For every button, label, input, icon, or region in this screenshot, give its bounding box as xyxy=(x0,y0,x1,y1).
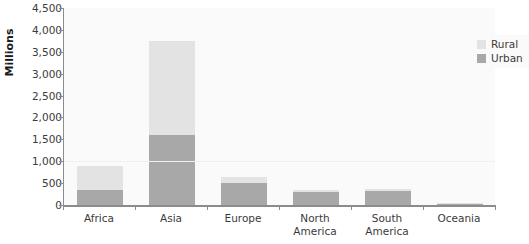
y-axis-tick-mark xyxy=(59,183,63,184)
x-axis-category-label: Africa xyxy=(63,212,135,225)
y-axis-tick-mark xyxy=(59,30,63,31)
y-axis-tick-label: 0 xyxy=(18,200,62,210)
y-axis-tick-label: 1,000 xyxy=(18,156,62,166)
x-axis-category-label: Oceania xyxy=(423,212,495,225)
y-axis-tick-mark xyxy=(59,52,63,53)
bar-segment-urban[interactable] xyxy=(365,191,411,205)
y-axis-tick-label: 2,500 xyxy=(18,91,62,101)
y-axis-tick-labels: 05001,0001,5002,0002,5003,0003,5004,0004… xyxy=(18,0,62,205)
x-axis-tick-mark xyxy=(135,205,136,210)
y-axis-tick-label: 1,500 xyxy=(18,134,62,144)
y-axis-tick-label: 3,000 xyxy=(18,69,62,79)
y-axis-tick-label: 3,500 xyxy=(18,47,62,57)
y-axis-tick-mark xyxy=(59,8,63,9)
bar-group[interactable] xyxy=(293,190,339,205)
gridline xyxy=(64,161,495,162)
x-axis-tick-mark xyxy=(207,205,208,210)
y-axis-tick-label: 4,000 xyxy=(18,25,62,35)
x-axis-category-label: Asia xyxy=(135,212,207,225)
y-axis-tick-mark xyxy=(59,74,63,75)
y-axis-tick-mark xyxy=(59,161,63,162)
x-axis-category-label: SouthAmerica xyxy=(351,212,423,237)
bar-segment-urban[interactable] xyxy=(293,192,339,205)
bar-group[interactable] xyxy=(221,177,267,205)
bar-segment-rural[interactable] xyxy=(77,166,123,190)
bar-segment-urban[interactable] xyxy=(221,183,267,205)
plot-area: RuralUrban xyxy=(63,8,495,205)
x-axis-category-label: Europe xyxy=(207,212,279,225)
y-axis-tick-label: 500 xyxy=(18,178,62,188)
x-axis-tick-mark xyxy=(495,205,496,210)
legend-label: Urban xyxy=(491,53,523,64)
bar-segment-urban[interactable] xyxy=(77,190,123,205)
y-axis-tick-mark xyxy=(59,139,63,140)
y-axis-title: Millions xyxy=(0,0,20,205)
bar-segment-rural[interactable] xyxy=(149,41,195,135)
legend-swatch-icon xyxy=(477,54,486,63)
x-axis-tick-mark xyxy=(279,205,280,210)
bar-group[interactable] xyxy=(365,189,411,205)
chart-legend: RuralUrban xyxy=(472,35,529,68)
y-axis-title-text: Millions xyxy=(4,29,17,77)
y-axis-tick-label: 4,500 xyxy=(18,3,62,13)
x-axis-tick-mark xyxy=(63,205,64,210)
bar-group[interactable] xyxy=(149,41,195,205)
x-axis-category-label: NorthAmerica xyxy=(279,212,351,237)
bar-segment-urban[interactable] xyxy=(149,135,195,205)
legend-label: Rural xyxy=(491,39,518,50)
y-axis-tick-mark xyxy=(59,117,63,118)
legend-swatch-icon xyxy=(477,40,486,49)
legend-item[interactable]: Rural xyxy=(477,39,523,50)
x-axis-tick-mark xyxy=(351,205,352,210)
x-axis-tick-mark xyxy=(423,205,424,210)
legend-item[interactable]: Urban xyxy=(477,53,523,64)
y-axis-tick-label: 2,000 xyxy=(18,112,62,122)
y-axis-tick-mark xyxy=(59,96,63,97)
bar-group[interactable] xyxy=(77,166,123,205)
